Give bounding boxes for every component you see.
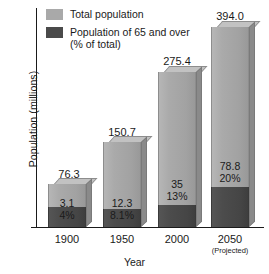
bar-segment-senior-2050 <box>211 187 249 227</box>
bar-total-label-1900: 76.3 <box>41 168 97 180</box>
x-tick-1900: 1900 <box>37 233 97 246</box>
bar-total-label-2000: 275.4 <box>149 55 205 67</box>
bar-segment-senior-1950 <box>103 209 141 227</box>
bar-group-2050[interactable] <box>211 27 255 227</box>
bar-group-1950[interactable] <box>103 142 147 227</box>
x-tick-label-1900: 1900 <box>55 233 79 245</box>
x-tick-label-2050: 2050 <box>218 233 242 245</box>
x-axis-title: Year <box>0 256 269 268</box>
x-tick-1950: 1950 <box>92 233 152 246</box>
bar-segment-senior-2000 <box>158 205 196 227</box>
x-tick-label-1950: 1950 <box>110 233 134 245</box>
bar-side-face-2000 <box>196 67 202 227</box>
bar-total-label-2050: 394.0 <box>202 10 258 22</box>
x-tick-2000: 2000 <box>147 233 207 246</box>
bar-segment-total-2050 <box>211 27 249 187</box>
bar-total-label-1950: 150.7 <box>94 126 150 138</box>
population-bar-chart: Population (millions) Total population P… <box>0 0 269 274</box>
bar-segment-total-1950 <box>103 142 141 209</box>
bar-group-2000[interactable] <box>158 72 202 227</box>
bar-group-1900[interactable] <box>48 184 92 227</box>
bar-side-face-1900 <box>86 179 92 227</box>
bar-side-face-1950 <box>141 137 147 227</box>
bar-segment-senior-1900 <box>48 207 86 227</box>
x-tick-label-2000: 2000 <box>165 233 189 245</box>
bar-side-face-2050 <box>249 22 255 227</box>
bar-segment-total-1900 <box>48 184 86 207</box>
x-tick-2050: 2050 (Projected) <box>200 233 260 255</box>
x-tick-note-2050: (Projected) <box>200 246 260 255</box>
bar-segment-total-2000 <box>158 72 196 205</box>
